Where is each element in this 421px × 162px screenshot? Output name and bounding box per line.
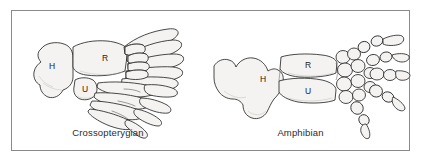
figure-root: H R U Crossopterygian <box>0 0 421 162</box>
digit2-phalanx-1 <box>365 53 380 66</box>
digit3-phalanx-2 <box>384 70 397 81</box>
carpal-bone-4 <box>351 60 365 73</box>
carpal-bone-8 <box>353 89 366 101</box>
bone-label-humerus-amphibian: H <box>260 74 266 84</box>
bone-label-ulna-crossopterygian: U <box>82 84 88 94</box>
digit2-phalanx-2 <box>379 51 393 63</box>
carpal-bone-6 <box>351 75 365 88</box>
digit1-phalanx-3 <box>383 35 404 45</box>
carpal-bone-5 <box>337 77 352 91</box>
figure-frame: H R U Crossopterygian <box>11 10 410 151</box>
bone-label-ulna-amphibian: U <box>305 86 311 96</box>
caption-amphibian: Amphibian <box>201 127 400 138</box>
digit2-phalanx-3 <box>392 54 409 62</box>
caption-crossopterygian: Crossopterygian <box>8 127 208 138</box>
fin-radial-mid-4 <box>126 70 148 80</box>
bone-humerus-amphibian <box>214 58 283 119</box>
carpal-bone-3 <box>338 63 353 77</box>
panel-crossopterygian: H R U Crossopterygian <box>12 11 212 152</box>
digit3-phalanx-1 <box>370 68 384 80</box>
bone-label-humerus-crossopterygian: H <box>49 61 55 71</box>
digit1-phalanx-2 <box>370 34 385 48</box>
bone-radius-crossopterygian <box>73 41 128 76</box>
digit4-phalanx-3 <box>392 97 405 111</box>
panel-amphibian: H R U Amphibian <box>212 11 411 152</box>
digit3-phalanx-3 <box>396 71 410 81</box>
bone-label-radius-amphibian: R <box>305 60 311 70</box>
bone-label-radius-crossopterygian: R <box>102 53 108 63</box>
carpal-bone-7 <box>339 91 353 104</box>
